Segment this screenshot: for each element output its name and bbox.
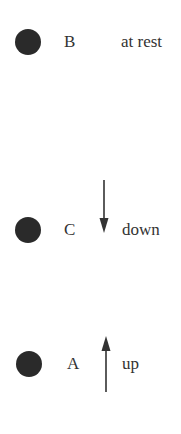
ball-c [15,217,41,243]
label-c: C [64,220,75,240]
label-a: A [67,354,79,374]
ball-b [15,29,41,55]
arrow-down-icon [98,180,110,234]
state-c: down [122,220,160,240]
arrow-up-icon [100,336,112,392]
state-a: up [122,354,139,374]
ball-a [16,351,42,377]
label-b: B [64,32,75,52]
state-b: at rest [121,32,162,52]
